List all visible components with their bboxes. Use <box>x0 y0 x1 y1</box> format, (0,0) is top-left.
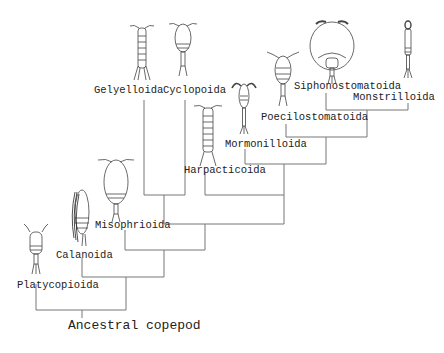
platycopioida-illustration <box>24 224 48 274</box>
phylogeny-diagram <box>0 0 444 353</box>
branch-gelyelloida-cyclopoida <box>144 100 185 195</box>
calanoida-illustration <box>72 190 89 246</box>
taxon-label-platycopioida: Platycopioida <box>17 279 99 291</box>
taxon-label-monstrilloida: Monstrilloida <box>353 91 435 103</box>
taxon-label-calanoida: Calanoida <box>56 249 113 261</box>
taxon-label-harpacticoida: Harpacticoida <box>184 164 266 176</box>
root-label: Ancestral copepod <box>68 320 201 332</box>
monstrilloida-illustration <box>404 21 412 78</box>
harpacticoida-illustration <box>194 105 222 166</box>
misophrioida-illustration <box>98 159 134 222</box>
taxon-label-cyclopoida: Cyclopoida <box>163 84 226 96</box>
taxon-label-poecilostomatoida: Poecilostomatoida <box>261 111 368 123</box>
gelyelloida-illustration <box>130 25 154 80</box>
branch-node-4 <box>164 195 284 224</box>
siphonostomatoida-illustration <box>310 21 354 84</box>
taxon-label-mormonilloida: Mormonilloida <box>225 138 307 150</box>
taxon-label-gelyelloida: Gelyelloida <box>94 84 163 96</box>
cyclopoida-illustration <box>169 23 197 76</box>
mormonilloida-illustration <box>232 83 256 134</box>
poecilostomatoida-illustration <box>267 52 299 106</box>
taxon-label-misophrioida: Misophrioida <box>95 219 171 231</box>
